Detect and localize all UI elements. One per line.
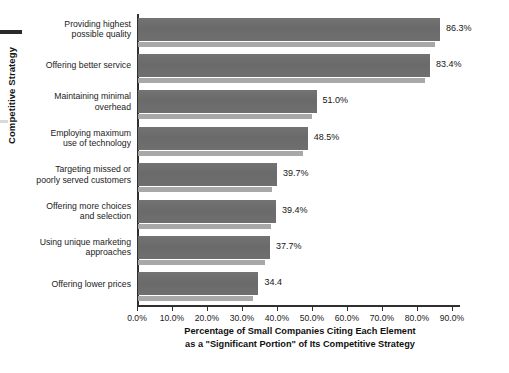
bar-shadow-band (138, 151, 303, 156)
y-axis-category-labels: Providing highestpossible qualityOfferin… (20, 14, 134, 305)
x-axis-tick (417, 306, 418, 311)
x-axis-tick (382, 306, 383, 311)
x-axis-title-line-2: as a "Significant Portion" of Its Compet… (110, 338, 490, 351)
bar-group: 37.7% (138, 236, 340, 265)
bar (138, 236, 270, 259)
x-axis-title-line-1: Percentage of Small Companies Citing Eac… (110, 325, 490, 338)
category-label-line: poorly served customers (19, 175, 131, 186)
x-axis-line (137, 305, 460, 307)
bar-shadow-band (138, 260, 265, 265)
x-axis-tick (207, 306, 208, 311)
category-label-line: Employing maximum (19, 128, 131, 139)
bar-shadow-band (138, 42, 435, 47)
bar-group: 83.4% (138, 54, 500, 83)
bar-shadow-band (138, 187, 272, 192)
plot-area: 0.0%10.0%20.0%30.0%40.0%50.0%60.0%70.0%8… (137, 14, 460, 305)
bar (138, 127, 308, 150)
bar-shadow-band (138, 114, 312, 119)
bar-chart-figure: Competitive Strategy Providing highestpo… (0, 0, 509, 373)
category-label-line: use of technology (19, 138, 131, 149)
x-axis-tick (172, 306, 173, 311)
x-axis-tick (277, 306, 278, 311)
category-label-line: Offering better service (19, 60, 131, 71)
category-label-line: Targeting missed or (19, 164, 131, 175)
x-axis-tick (137, 306, 138, 311)
category-label-line: Providing highest (19, 19, 131, 30)
category-label-line: Offering lower prices (19, 279, 131, 290)
category-label-line: Maintaining minimal (19, 91, 131, 102)
x-axis-title: Percentage of Small Companies Citing Eac… (110, 325, 490, 350)
category-label: Maintaining minimaloverhead (19, 91, 131, 112)
category-label: Offering better service (19, 60, 131, 71)
bar-value-label: 34.4 (264, 277, 282, 287)
bar-group: 34.4 (138, 272, 328, 301)
bar-group: 39.4% (138, 200, 346, 229)
category-label: Targeting missed orpoorly served custome… (19, 164, 131, 185)
bar-group: 51.0% (138, 90, 387, 119)
x-axis-tick-label: 90.0% (428, 313, 476, 323)
bar (138, 54, 430, 77)
bar-shadow-band (138, 296, 253, 301)
bar-value-label: 39.7% (283, 168, 309, 178)
category-label: Providing highestpossible quality (19, 19, 131, 40)
bar (138, 18, 440, 41)
category-label-line: Using unique marketing (19, 237, 131, 248)
bar-value-label: 39.4% (282, 205, 308, 215)
x-axis-tick (452, 306, 453, 311)
category-label-line: and selection (19, 211, 131, 222)
bar-shadow-band (138, 78, 425, 83)
x-axis-tick (347, 306, 348, 311)
x-axis-tick (312, 306, 313, 311)
bar (138, 272, 258, 295)
bar-value-label: 83.4% (436, 59, 462, 69)
bar-group: 86.3% (138, 18, 509, 47)
bar (138, 90, 317, 113)
category-label-line: overhead (19, 102, 131, 113)
bar (138, 200, 276, 223)
category-label-line: possible quality (19, 29, 131, 40)
category-label: Offering more choicesand selection (19, 201, 131, 222)
category-label: Employing maximumuse of technology (19, 128, 131, 149)
category-label: Offering lower prices (19, 279, 131, 290)
bar (138, 163, 277, 186)
bar-group: 39.7% (138, 163, 347, 192)
x-axis-tick (242, 306, 243, 311)
bar-value-label: 51.0% (323, 95, 349, 105)
category-label-line: Offering more choices (19, 201, 131, 212)
bar-value-label: 37.7% (276, 241, 302, 251)
bar-shadow-band (138, 224, 271, 229)
y-axis-title: Competitive Strategy (6, 4, 20, 144)
bar-value-label: 86.3% (446, 23, 472, 33)
bar-group: 48.5% (138, 127, 378, 156)
bar-value-label: 48.5% (314, 132, 340, 142)
category-label-line: approaches (19, 247, 131, 258)
category-label: Using unique marketingapproaches (19, 237, 131, 258)
